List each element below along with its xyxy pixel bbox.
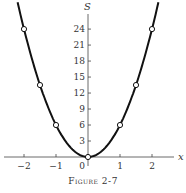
x-tick-label: −2 [17,161,30,171]
data-point [85,154,90,159]
figure: xS−2−10123691215182124 Figure 2-7 [0,0,186,193]
x-tick-label: 0 [79,161,85,171]
x-tick-label: −1 [49,161,62,171]
y-tick-label: 12 [74,88,85,98]
data-point [53,122,58,127]
y-tick-label: 3 [79,136,85,146]
data-point [21,26,26,31]
y-tick-label: 6 [79,120,85,130]
x-axis-label: x [178,151,184,162]
data-point [37,82,42,87]
y-tick-label: 18 [74,56,86,66]
y-tick-label: 15 [74,72,86,82]
y-axis-label: S [84,1,91,12]
data-point [149,26,154,31]
y-tick-label: 21 [74,40,85,50]
x-tick-label: 1 [117,161,123,171]
y-tick-label: 24 [74,24,86,34]
figure-caption: Figure 2-7 [0,176,186,186]
parabola-chart: xS−2−10123691215182124 [0,0,186,193]
y-tick-label: 9 [79,104,85,114]
x-tick-label: 2 [149,161,155,171]
data-point [133,82,138,87]
data-point [117,122,122,127]
